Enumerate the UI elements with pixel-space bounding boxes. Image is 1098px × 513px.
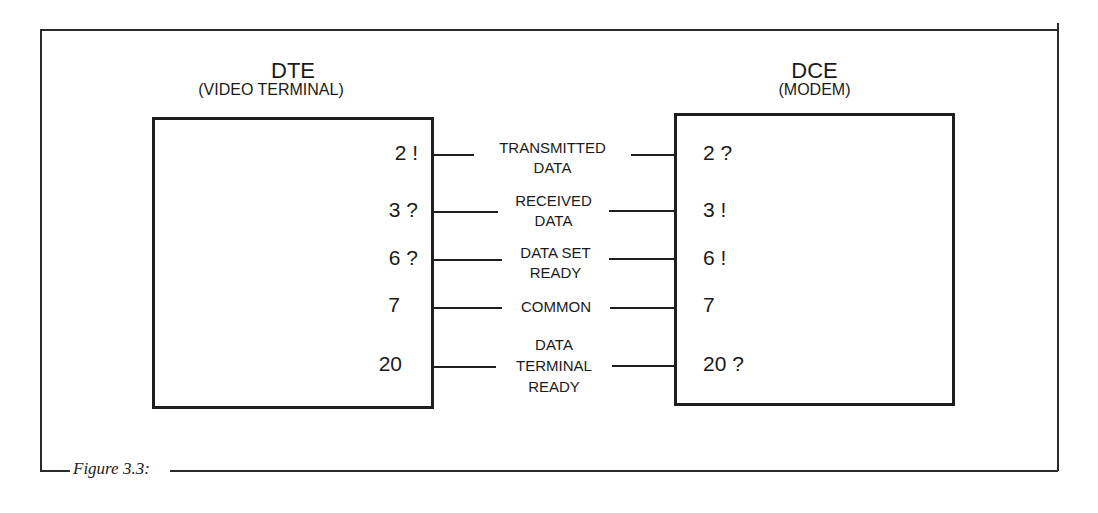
signal-line-dsr-right <box>609 258 675 260</box>
signal-line-common-right <box>610 307 675 309</box>
signal-label-data-set-ready: DATA SET READY <box>502 243 609 283</box>
signal-label-data-terminal-ready: DATA TERMINAL READY <box>496 334 612 397</box>
signal-line-received-left <box>432 211 498 213</box>
dte-subtitle: (VIDEO TERMINAL) <box>130 81 412 99</box>
figure-frame-right <box>1057 23 1059 471</box>
signal-line-dtr-left <box>432 366 496 368</box>
dce-subtitle: (MODEM) <box>674 81 955 99</box>
figure-frame-bottom <box>170 470 1058 472</box>
figure-frame-bottom-left <box>40 470 70 472</box>
dte-pin-6: 6 ? <box>338 246 418 270</box>
signal-label-transmitted-data: TRANSMITTED DATA <box>474 138 631 178</box>
signal-line-transmitted-left <box>432 154 474 156</box>
dce-pin-20: 20 ? <box>703 352 783 376</box>
dce-pin-7: 7 <box>703 293 783 317</box>
signal-label-received-data: RECEIVED DATA <box>498 191 609 231</box>
dte-pin-20: 20 <box>322 352 402 376</box>
dte-pin-3: 3 ? <box>338 198 418 222</box>
figure-caption: Figure 3.3: <box>73 459 150 479</box>
signal-line-dtr-right <box>612 365 675 367</box>
dce-pin-2: 2 ? <box>703 141 783 165</box>
dte-pin-7: 7 <box>320 293 400 317</box>
signal-label-common: COMMON <box>502 297 610 317</box>
signal-line-received-right <box>609 210 675 212</box>
figure-frame-top <box>40 29 1058 31</box>
figure-frame-left <box>40 29 42 471</box>
dte-pin-2: 2 ! <box>338 141 418 165</box>
signal-line-transmitted-right <box>631 154 675 156</box>
signal-line-common-left <box>432 307 502 309</box>
dce-pin-3: 3 ! <box>703 198 783 222</box>
dce-pin-6: 6 ! <box>703 246 783 270</box>
signal-line-dsr-left <box>432 259 502 261</box>
